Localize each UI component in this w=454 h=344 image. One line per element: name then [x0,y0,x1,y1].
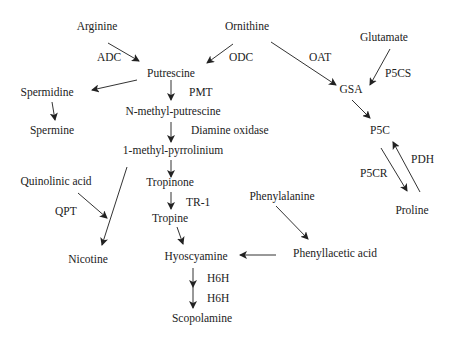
enzyme-p5cr: P5CR [360,167,388,180]
pathway-diagram: Arginine Ornithine Glutamate Putrescine … [0,0,454,344]
node-nicotine: Nicotine [68,253,108,266]
node-phenylalanine: Phenylalanine [249,190,314,203]
enzyme-p5cs: P5CS [385,67,411,80]
node-tropine: Tropine [152,212,188,225]
node-spermine: Spermine [30,124,74,137]
arrow-gsa-p5c [352,100,370,118]
node-scopolamine: Scopolamine [172,312,232,325]
node-hyoscyamine: Hyoscyamine [164,250,227,263]
node-spermidine: Spermidine [20,86,73,99]
node-quinolinic-acid: Quinolinic acid [20,175,91,188]
enzyme-qpt: QPT [55,205,77,218]
node-phenyllacetic-acid: Phenyllacetic acid [293,247,377,260]
enzyme-oat: OAT [309,51,331,64]
node-1-methyl-pyrrolinium: 1-methyl-pyrrolinium [123,144,223,157]
arrow-tropine-hyoscyamine [177,227,183,244]
node-proline: Proline [395,204,428,217]
arrow-spermidine-spermine [52,102,55,120]
enzyme-h6h-2: H6H [207,292,229,305]
enzyme-pdh: PDH [411,153,434,166]
arrow-proline-p5c [393,142,420,192]
node-glutamate: Glutamate [360,31,408,44]
node-tropinone: Tropinone [146,176,194,189]
node-putrescine: Putrescine [147,67,195,80]
enzyme-h6h-1: H6H [207,272,229,285]
node-p5c: P5C [370,124,390,137]
enzyme-tr1: TR-1 [186,196,210,209]
node-n-methyl-putrescine: N-methyl-putrescine [125,105,220,118]
arrow-putrescine-spermidine [92,80,137,90]
enzyme-pmt: PMT [189,86,213,99]
arrow-pyrrolinium-nicotine [102,167,127,245]
arrow-phenylalanine-phenylacetic [276,206,308,239]
arrow-quinolinic-nicotine [78,193,107,218]
enzyme-diamine-oxidase: Diamine oxidase [191,124,269,137]
enzyme-adc: ADC [97,51,121,64]
node-gsa: GSA [339,83,362,96]
node-ornithine: Ornithine [225,20,269,33]
enzyme-odc: ODC [229,51,253,64]
node-arginine: Arginine [77,20,118,33]
